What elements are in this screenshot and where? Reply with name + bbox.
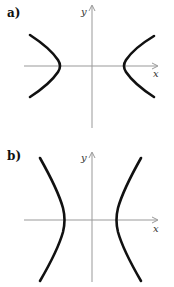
panel-a: a) y x bbox=[0, 0, 174, 140]
y-axis-label: y bbox=[81, 153, 87, 163]
panel-b: b) y x bbox=[0, 140, 174, 287]
y-axis-label: y bbox=[81, 7, 87, 17]
panel-a-graph bbox=[0, 0, 174, 140]
x-axis-label: x bbox=[153, 69, 159, 79]
x-axis-label: x bbox=[153, 224, 159, 234]
panel-b-graph bbox=[0, 140, 174, 287]
